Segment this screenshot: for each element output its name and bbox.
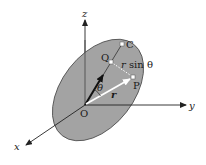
r-label: r bbox=[111, 89, 117, 100]
origin-label: O bbox=[80, 108, 88, 119]
theta-label: θ bbox=[97, 82, 103, 93]
x-axis-label: x bbox=[14, 141, 20, 152]
y-axis-label: y bbox=[188, 100, 195, 111]
point-p-marker bbox=[131, 75, 135, 79]
point-q-label: Q bbox=[101, 52, 109, 63]
z-axis-label: z bbox=[81, 8, 88, 19]
r-sin-theta-label: r sin θ bbox=[121, 59, 153, 70]
point-q-marker bbox=[109, 60, 113, 64]
r-sin-theta-rest: sin θ bbox=[126, 59, 153, 70]
point-p-label: P bbox=[133, 80, 140, 91]
point-c-marker bbox=[120, 42, 124, 46]
diagram-canvas: z y x O C Q P θ r r sin θ bbox=[0, 0, 206, 165]
point-c-label: C bbox=[126, 39, 134, 50]
